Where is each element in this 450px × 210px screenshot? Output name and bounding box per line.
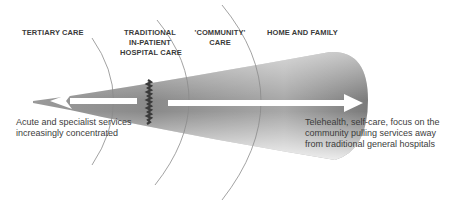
zone-label-traditional: TRADITIONAL IN-PATIENT HOSPITAL CARE	[120, 28, 180, 58]
caption-line: Telehealth, self-care, focus on the	[305, 117, 440, 128]
zone-label-line: HOME AND FAMILY	[267, 28, 338, 38]
zone-label-line: HOSPITAL CARE	[120, 48, 180, 58]
zone-label-line: CARE	[193, 38, 247, 48]
zone-label-line: TERTIARY CARE	[22, 28, 84, 38]
zone-label-line: TRADITIONAL	[120, 28, 180, 38]
caption-line: from traditional general hospitals	[305, 139, 440, 150]
caption-left: Acute and specialist services increasing…	[16, 117, 132, 139]
zone-label-tertiary: TERTIARY CARE	[22, 28, 84, 38]
zone-label-community: 'COMMUNITY' CARE	[193, 28, 247, 48]
zone-label-home: HOME AND FAMILY	[267, 28, 338, 38]
zone-label-line: IN-PATIENT	[120, 38, 180, 48]
zone-label-line: 'COMMUNITY'	[193, 28, 247, 38]
caption-right: Telehealth, self-care, focus on the comm…	[305, 117, 440, 150]
caption-line: community pulling services away	[305, 128, 440, 139]
caption-line: increasingly concentrated	[16, 128, 132, 139]
caption-line: Acute and specialist services	[16, 117, 132, 128]
care-spectrum-diagram: TERTIARY CARE TRADITIONAL IN-PATIENT HOS…	[0, 0, 450, 210]
